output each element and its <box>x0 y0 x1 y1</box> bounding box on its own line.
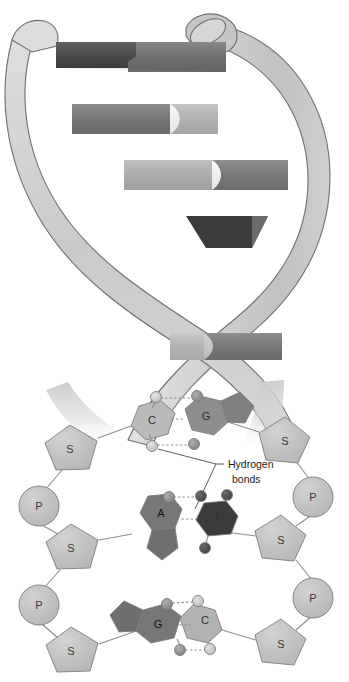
phosphate-unit: P <box>19 486 59 526</box>
sugar-label: S <box>277 638 284 650</box>
hbond-dot <box>189 439 200 450</box>
dna-figure: S P S P S S P S <box>0 0 349 682</box>
helix-rung-1 <box>56 42 226 72</box>
phosphate-label: P <box>309 491 316 503</box>
hbond-dot <box>175 645 186 656</box>
helix-rung-5 <box>170 333 282 360</box>
sugar-label: S <box>281 435 288 447</box>
base-letter: A <box>157 507 165 519</box>
phosphate-unit: P <box>19 585 59 625</box>
base-letter: C <box>148 414 156 426</box>
phosphate-unit: P <box>293 578 333 618</box>
phosphate-label: P <box>35 599 42 611</box>
hbond-dot <box>205 644 216 655</box>
base-letter: C <box>201 614 209 626</box>
base-letter: T <box>214 512 221 524</box>
base-substituent-dot <box>200 543 211 554</box>
base-letter: G <box>154 618 163 630</box>
hbond-dot <box>196 491 207 502</box>
helix-rung-3 <box>124 160 288 190</box>
hbond-dot <box>151 392 162 403</box>
hydrogen-bonds-label-line1: Hydrogen <box>228 458 274 470</box>
base-letter: G <box>202 410 211 422</box>
sugar-label: S <box>277 534 284 546</box>
sugar-label: S <box>67 645 74 657</box>
sugar-label: S <box>66 443 73 455</box>
hbond-dot <box>192 391 203 402</box>
sugar-label: S <box>67 542 74 554</box>
helix-rung-2 <box>72 104 218 134</box>
phosphate-unit: P <box>293 477 333 517</box>
phosphate-label: P <box>309 592 316 604</box>
base-substituent-dot <box>222 490 233 501</box>
hbond-dot <box>164 492 175 503</box>
phosphate-label: P <box>35 500 42 512</box>
dna-diagram-canvas: S P S P S S P S <box>0 0 349 682</box>
hbond-dot <box>147 441 158 452</box>
hydrogen-bonds-label-line2: bonds <box>232 473 261 485</box>
hbond-dot <box>193 596 204 607</box>
